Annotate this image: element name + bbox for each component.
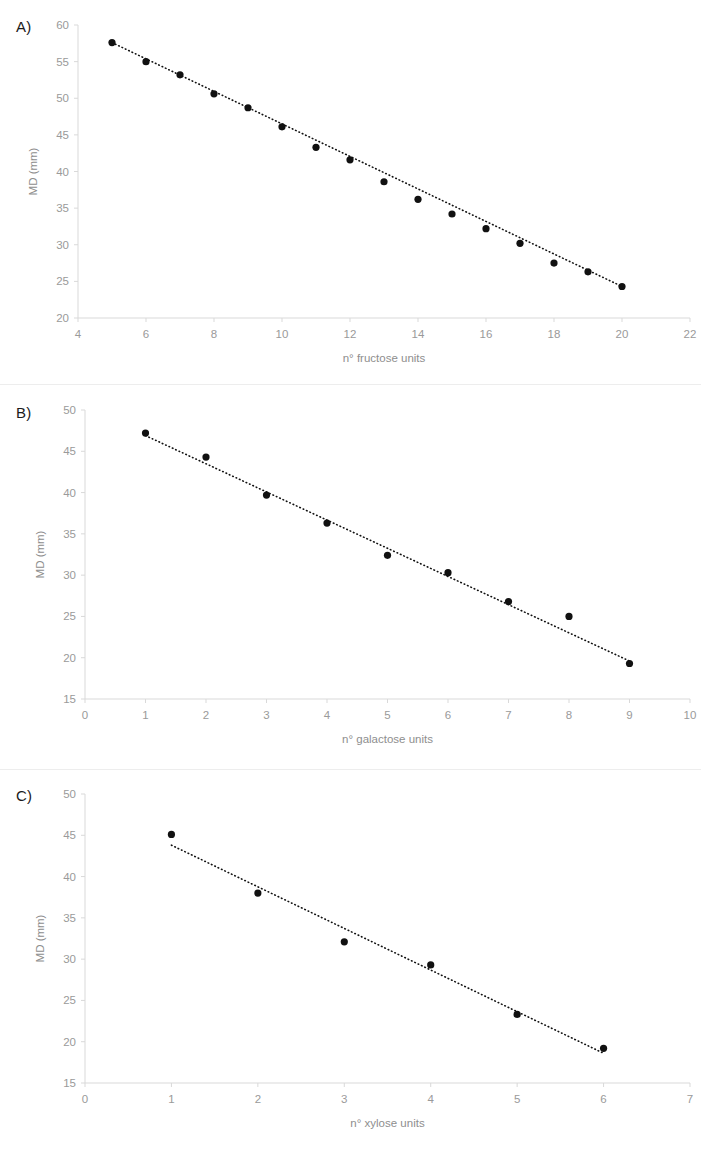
data-point-marker	[550, 259, 557, 266]
x-tick-label: 16	[480, 328, 493, 340]
data-point-marker	[444, 569, 451, 576]
x-tick-label: 10	[684, 709, 697, 721]
y-tick-label: 30	[63, 569, 76, 581]
data-point-marker	[244, 104, 251, 111]
scatter-chart-b: 1520253035404550012345678910n° galactose…	[0, 384, 701, 769]
x-tick-label: 4	[324, 709, 331, 721]
y-axis-title: MD (mm)	[27, 147, 39, 195]
data-point-marker	[142, 58, 149, 65]
x-axis-title: n° fructose units	[343, 352, 426, 364]
chart-panel-b: B) 1520253035404550012345678910n° galact…	[0, 384, 701, 769]
data-point-marker	[618, 283, 625, 290]
chart-panel-a: A) 20253035404550556046810121416182022n°…	[0, 0, 701, 384]
data-point-marker	[448, 210, 455, 217]
y-tick-label: 40	[63, 487, 76, 499]
y-tick-label: 30	[56, 239, 69, 251]
y-tick-label: 20	[56, 312, 69, 324]
x-tick-label: 3	[341, 1093, 347, 1105]
y-axis-title: MD (mm)	[34, 530, 46, 578]
trendline	[112, 43, 622, 287]
data-point-marker	[176, 71, 183, 78]
x-tick-label: 5	[384, 709, 390, 721]
y-tick-label: 50	[63, 788, 76, 800]
y-tick-label: 25	[63, 610, 76, 622]
data-point-marker	[584, 268, 591, 275]
y-tick-label: 15	[63, 1077, 76, 1089]
data-point-marker	[108, 39, 115, 46]
x-tick-label: 9	[626, 709, 632, 721]
data-point-marker	[626, 660, 633, 667]
data-point-marker	[516, 240, 523, 247]
y-tick-label: 20	[63, 652, 76, 664]
y-tick-label: 25	[63, 994, 76, 1006]
data-point-marker	[263, 491, 270, 498]
y-tick-label: 35	[63, 912, 76, 924]
data-point-marker	[380, 178, 387, 185]
x-tick-label: 22	[684, 328, 697, 340]
x-axis-title: n° galactose units	[342, 733, 433, 745]
data-point-marker	[346, 156, 353, 163]
y-tick-label: 20	[63, 1036, 76, 1048]
x-axis-title: n° xylose units	[350, 1117, 425, 1129]
data-point-marker	[565, 613, 572, 620]
data-point-marker	[254, 889, 261, 896]
x-tick-label: 10	[276, 328, 289, 340]
y-tick-label: 25	[56, 275, 69, 287]
trendline	[146, 436, 630, 661]
x-tick-label: 4	[75, 328, 82, 340]
data-point-marker	[323, 520, 330, 527]
x-tick-label: 6	[600, 1093, 606, 1105]
x-tick-label: 8	[566, 709, 572, 721]
data-point-marker	[210, 90, 217, 97]
x-tick-label: 18	[548, 328, 561, 340]
y-tick-label: 15	[63, 693, 76, 705]
x-tick-label: 0	[82, 1093, 88, 1105]
data-point-marker	[278, 123, 285, 130]
data-point-marker	[505, 598, 512, 605]
y-tick-label: 45	[56, 129, 69, 141]
y-tick-label: 50	[63, 404, 76, 416]
y-tick-label: 55	[56, 56, 69, 68]
x-tick-label: 8	[211, 328, 217, 340]
x-tick-label: 20	[616, 328, 629, 340]
data-point-marker	[482, 225, 489, 232]
figure-container: A) 20253035404550556046810121416182022n°…	[0, 0, 701, 1153]
x-tick-label: 5	[514, 1093, 520, 1105]
trendline	[171, 845, 603, 1053]
x-tick-label: 3	[263, 709, 269, 721]
x-tick-label: 2	[255, 1093, 261, 1105]
data-point-marker	[514, 1011, 521, 1018]
data-point-marker	[384, 552, 391, 559]
y-axis-title: MD (mm)	[34, 914, 46, 962]
x-tick-label: 7	[687, 1093, 693, 1105]
y-tick-label: 40	[56, 166, 69, 178]
y-tick-label: 50	[56, 92, 69, 104]
data-point-marker	[142, 430, 149, 437]
data-point-marker	[600, 1045, 607, 1052]
y-tick-label: 60	[56, 19, 69, 31]
x-tick-label: 6	[445, 709, 451, 721]
scatter-chart-c: 152025303540455001234567n° xylose unitsM…	[0, 769, 701, 1153]
chart-panel-c: C) 152025303540455001234567n° xylose uni…	[0, 769, 701, 1153]
x-tick-label: 2	[203, 709, 209, 721]
y-tick-label: 35	[63, 528, 76, 540]
scatter-chart-a: 20253035404550556046810121416182022n° fr…	[0, 0, 701, 384]
data-point-marker	[341, 938, 348, 945]
data-point-marker	[312, 144, 319, 151]
x-tick-label: 7	[505, 709, 511, 721]
x-tick-label: 14	[412, 328, 425, 340]
y-tick-label: 40	[63, 871, 76, 883]
x-tick-label: 1	[168, 1093, 174, 1105]
x-tick-label: 1	[142, 709, 148, 721]
y-tick-label: 35	[56, 202, 69, 214]
data-point-marker	[202, 453, 209, 460]
x-tick-label: 6	[143, 328, 149, 340]
data-point-marker	[427, 961, 434, 968]
x-tick-label: 12	[344, 328, 357, 340]
x-tick-label: 4	[428, 1093, 435, 1105]
data-point-marker	[168, 831, 175, 838]
y-tick-label: 45	[63, 445, 76, 457]
x-tick-label: 0	[82, 709, 88, 721]
y-tick-label: 30	[63, 953, 76, 965]
data-point-marker	[414, 196, 421, 203]
